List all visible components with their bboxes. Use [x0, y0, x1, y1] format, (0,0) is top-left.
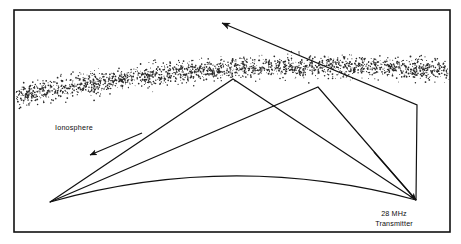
propagation-diagram: Ionosphere 28 MHz Transmitter [0, 0, 461, 244]
ionosphere-label: Ionosphere [55, 123, 93, 132]
figure-background [0, 0, 461, 244]
transmitter-label-name: Transmitter [375, 219, 413, 228]
figure-root: Ionosphere 28 MHz Transmitter [0, 0, 461, 244]
transmitter-label-frequency: 28 MHz [381, 209, 407, 218]
